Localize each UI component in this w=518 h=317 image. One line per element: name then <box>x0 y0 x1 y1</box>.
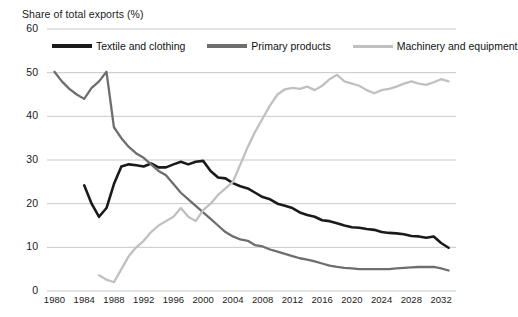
series-line-primary-products <box>54 72 448 271</box>
series-line-textile-and-clothing <box>84 161 448 248</box>
gridlines <box>47 29 456 291</box>
series-lines <box>54 72 448 282</box>
